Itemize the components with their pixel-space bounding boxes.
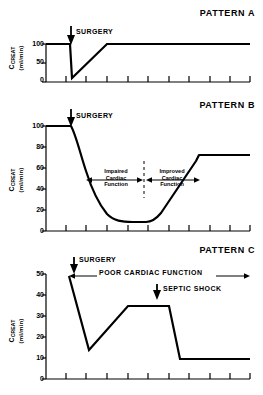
- pattern-b-improved-arrow-icon: [146, 177, 200, 183]
- pattern-c-surgery-arrow-icon: [70, 257, 78, 274]
- pattern-b-plot: [0, 95, 263, 240]
- pattern-c-septic-shock-arrow-icon: [153, 284, 161, 300]
- pattern-a-x-ticks: [66, 76, 250, 82]
- pattern-c-x-ticks: [66, 373, 250, 379]
- pattern-b-data-line: [46, 126, 250, 222]
- pattern-c-data-line: [69, 276, 250, 359]
- pattern-b-surgery-arrow-icon: [67, 109, 75, 127]
- pattern-a-plot: [0, 0, 263, 95]
- pattern-b-impaired-arrow-icon: [86, 177, 143, 183]
- pattern-a-data-line: [46, 44, 250, 78]
- panel-pattern-a: PATTERN A CCREAT (ml/min) 100 50 0 SURGE…: [0, 0, 263, 95]
- pattern-c-plot: [0, 240, 263, 395]
- pattern-c-poor-cardiac-arrow-icon: [69, 273, 250, 279]
- panel-pattern-c: PATTERN C CCREAT (ml/min) 50 40 30 20 10…: [0, 240, 263, 395]
- pattern-b-x-ticks: [66, 225, 250, 231]
- figure-creatinine-clearance-patterns: PATTERN A CCREAT (ml/min) 100 50 0 SURGE…: [0, 0, 263, 395]
- panel-pattern-b: PATTERN B CCREAT (ml/min) 100 80 60 40 2…: [0, 95, 263, 240]
- pattern-a-surgery-arrow-icon: [67, 26, 75, 45]
